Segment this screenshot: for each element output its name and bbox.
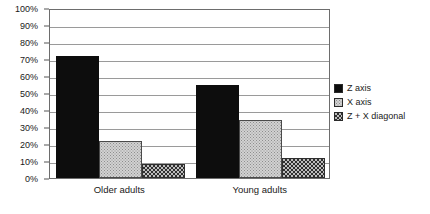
y-axis-tick-label: 50% — [20, 90, 38, 99]
y-axis-tick-label: 80% — [20, 39, 38, 48]
y-axis-tick-label: 30% — [20, 124, 38, 133]
bar-chart: 0%10%20%30%40%50%60%70%80%90%100% Older … — [0, 0, 430, 214]
bar — [142, 164, 185, 178]
legend-swatch-icon — [334, 84, 343, 93]
y-axis-tick-label: 20% — [20, 141, 38, 150]
x-axis-category-label: Young adults — [232, 185, 287, 195]
bar — [196, 85, 239, 179]
y-axis-tick-label: 40% — [20, 107, 38, 116]
plot-area — [49, 9, 330, 179]
y-axis-tick-label: 0% — [25, 175, 38, 184]
bar — [239, 120, 282, 178]
y-axis-tick-label: 10% — [20, 158, 38, 167]
bar — [99, 141, 142, 178]
legend-item: Z axis — [334, 84, 405, 93]
y-axis-tick-label: 90% — [20, 22, 38, 31]
legend-item-label: X axis — [347, 98, 372, 107]
legend-item-label: Z axis — [347, 84, 371, 93]
bar — [56, 56, 99, 178]
legend-swatch-icon — [334, 112, 343, 121]
bar — [282, 158, 325, 178]
y-axis-tick-label: 100% — [15, 5, 38, 14]
bars-layer — [50, 10, 329, 178]
x-axis-category-label: Older adults — [94, 185, 145, 195]
legend-swatch-icon — [334, 98, 343, 107]
legend-item: Z + X diagonal — [334, 112, 405, 121]
y-axis: 0%10%20%30%40%50%60%70%80%90%100% — [0, 9, 44, 179]
y-axis-tick-label: 70% — [20, 56, 38, 65]
legend: Z axisX axisZ + X diagonal — [334, 84, 405, 121]
legend-item: X axis — [334, 98, 405, 107]
legend-item-label: Z + X diagonal — [347, 112, 405, 121]
y-axis-tick-label: 60% — [20, 73, 38, 82]
